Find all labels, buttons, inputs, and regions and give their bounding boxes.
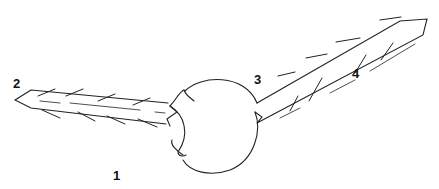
label-sphere: 1 xyxy=(113,168,120,183)
label-right-rod-base: 3 xyxy=(254,72,261,87)
left-socket xyxy=(170,90,186,156)
label-right-rod-barbs: 4 xyxy=(352,66,359,81)
diagram-canvas xyxy=(0,0,439,189)
right-rod xyxy=(255,17,427,123)
label-left-rod-tip: 2 xyxy=(13,76,20,91)
left-rod xyxy=(15,89,177,127)
